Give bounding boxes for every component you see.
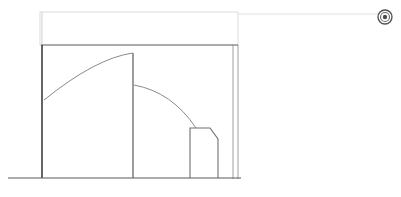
cad-drawing-canvas[interactable]: [0, 0, 401, 197]
canvas-background: [0, 0, 401, 197]
target-center-dot: [383, 15, 387, 19]
target-icon[interactable]: [378, 10, 392, 24]
